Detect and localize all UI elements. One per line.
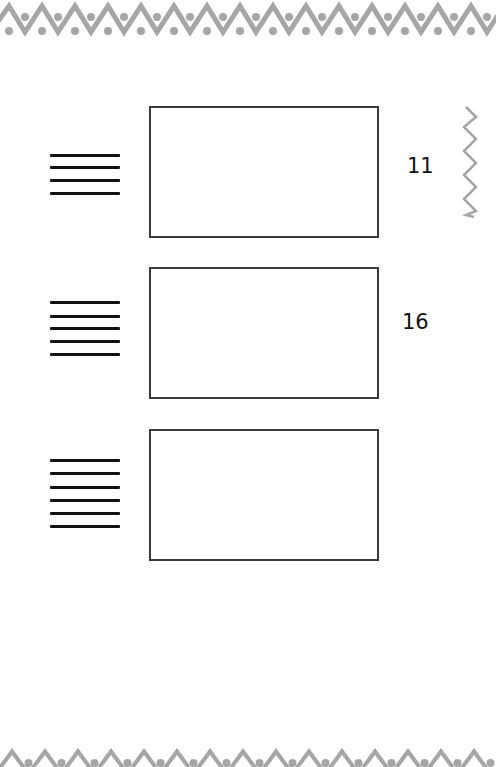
zigzag-dots-border-top [0, 0, 496, 40]
tally-line [50, 353, 120, 356]
tally-line [50, 301, 120, 304]
tally-line [50, 327, 120, 330]
drawing-box-row-3[interactable] [149, 429, 379, 561]
tally-line [50, 499, 120, 502]
answer-row-2: 16 [402, 310, 429, 334]
tally-line [50, 192, 120, 195]
drawing-box-row-1[interactable] [149, 106, 379, 238]
tally-line [50, 315, 120, 318]
tally-line [50, 340, 120, 343]
tally-line [50, 472, 120, 475]
drawing-box-row-2[interactable] [149, 267, 379, 399]
tally-line [50, 154, 120, 157]
tally-line [50, 512, 120, 515]
zigzag-side-decoration [458, 105, 480, 220]
tally-line [50, 179, 120, 182]
triangle-dots-border-bottom [0, 740, 496, 767]
tally-line [50, 459, 120, 462]
tally-line [50, 525, 120, 528]
answer-row-1: 11 [407, 154, 434, 178]
tally-line [50, 486, 120, 489]
tally-line [50, 166, 120, 169]
